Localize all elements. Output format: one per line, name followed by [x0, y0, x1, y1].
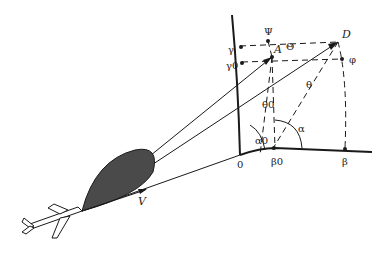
vertical-axis: [232, 15, 240, 155]
label-A: A: [273, 43, 282, 56]
label-alpha0: α0: [255, 135, 268, 146]
arrow-D: [328, 42, 338, 50]
label-D: D: [341, 28, 351, 41]
label-gamma: γ: [228, 44, 234, 55]
label-V: V: [138, 195, 147, 208]
label-origin: 0: [237, 159, 243, 170]
label-psi: Ψ: [264, 26, 273, 37]
label-alpha: α: [298, 123, 305, 134]
diagram-canvas: Ψ A Θ D γ γ0 φ θ0 θ α α0 0 β0 β V: [0, 0, 388, 257]
aircraft-icon: [22, 204, 82, 238]
label-beta: β: [342, 156, 348, 167]
label-gamma0: γ0: [226, 60, 238, 71]
label-phi: φ: [349, 54, 356, 65]
velocity-arrow: [138, 189, 147, 194]
label-Theta: Θ: [286, 41, 294, 52]
horizontal-axis: [240, 148, 372, 155]
label-theta: θ: [306, 79, 312, 90]
label-beta0: β0: [271, 156, 283, 167]
label-theta0: θ0: [262, 99, 274, 110]
